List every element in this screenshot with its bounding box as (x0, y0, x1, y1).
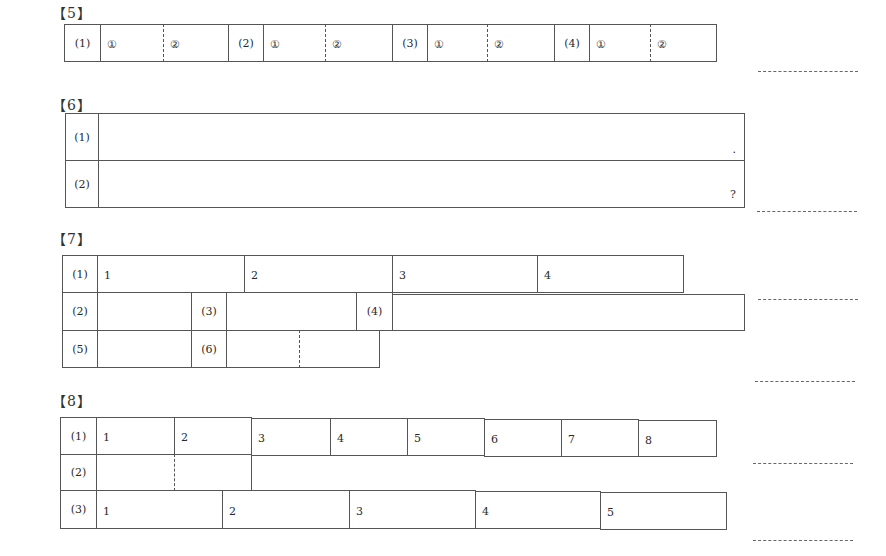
s6-q1-answer[interactable]: . (98, 113, 745, 161)
s8-q1-answer-2[interactable]: 2 (174, 417, 252, 455)
s5-q1-label: (1) (64, 24, 101, 62)
s8-q1-answer-7[interactable]: 7 (561, 419, 639, 457)
s5-q3-answer-1[interactable]: ① (427, 24, 488, 62)
s5-q4-answer-2[interactable]: ② (650, 24, 717, 62)
s7-score-line-1 (758, 299, 858, 300)
s5-q1-answer-2[interactable]: ② (163, 24, 229, 62)
s8-q3-answer-5[interactable]: 5 (600, 492, 727, 530)
section-5-heading: 【5】 (52, 2, 92, 22)
s5-q2-answer-1[interactable]: ① (263, 24, 326, 62)
s8-q1-answer-4[interactable]: 4 (330, 418, 408, 456)
section-6-heading: 【6】 (52, 94, 92, 114)
s7-q5-label: (5) (62, 330, 98, 368)
s8-q3-answer-4[interactable]: 4 (475, 491, 601, 529)
s5-q2-answer-2[interactable]: ② (325, 24, 393, 62)
s7-q1-answer-4[interactable]: 4 (537, 255, 684, 293)
s5-q4-label: (4) (554, 24, 590, 62)
s7-q5-answer[interactable] (97, 330, 192, 368)
s5-q3-answer-2[interactable]: ② (487, 24, 555, 62)
s8-q2-answer-2[interactable] (174, 454, 252, 491)
s7-q1-answer-1[interactable]: 1 (97, 255, 245, 293)
s8-q1-answer-5[interactable]: 5 (407, 418, 485, 456)
s6-q2-label: (2) (65, 160, 99, 208)
s7-q3-label: (3) (191, 292, 227, 331)
s8-q1-answer-3[interactable]: 3 (251, 418, 331, 456)
s7-q4-label: (4) (356, 292, 393, 331)
s6-q1-label: (1) (65, 113, 99, 161)
section-7-heading: 【7】 (52, 228, 92, 248)
s7-q1-answer-2[interactable]: 2 (244, 255, 393, 293)
s7-q6-answer-2[interactable] (299, 330, 380, 368)
s8-q3-label: (3) (60, 490, 97, 529)
s7-q6-answer-1[interactable] (226, 330, 300, 368)
section-8-heading: 【8】 (52, 390, 92, 410)
s6-q2-question-mark: ? (730, 188, 736, 201)
s5-q3-label: (3) (392, 24, 428, 62)
s7-q1-answer-3[interactable]: 3 (392, 255, 538, 293)
s5-q2-label: (2) (228, 24, 264, 62)
s8-q1-answer-1[interactable]: 1 (96, 417, 175, 455)
s7-q2-label: (2) (62, 292, 98, 331)
s8-q3-answer-2[interactable]: 2 (222, 490, 350, 529)
s5-q4-answer-1[interactable]: ① (589, 24, 651, 62)
s6-q1-period: . (733, 143, 737, 156)
s7-score-line-2 (755, 381, 855, 382)
s6-score-line (757, 211, 857, 212)
s7-q6-label: (6) (191, 330, 227, 368)
s8-q3-answer-3[interactable]: 3 (349, 490, 476, 529)
s7-q3-answer[interactable] (226, 292, 357, 331)
s8-q2-label: (2) (60, 454, 97, 491)
s6-q2-answer[interactable]: ? (98, 160, 745, 208)
s7-q2-answer[interactable] (97, 292, 192, 331)
s7-q1-label: (1) (62, 255, 98, 293)
s8-q3-answer-1[interactable]: 1 (96, 490, 223, 529)
s8-q1-answer-8[interactable]: 8 (638, 420, 717, 457)
s5-q1-answer-1[interactable]: ① (100, 24, 164, 62)
s8-q1-label: (1) (60, 417, 97, 455)
s8-score-line-1 (753, 463, 853, 464)
s5-score-line (758, 71, 858, 72)
s8-score-line-2 (753, 540, 853, 541)
s7-q4-answer[interactable] (392, 294, 745, 331)
s8-q1-answer-6[interactable]: 6 (484, 419, 562, 457)
s8-q2-answer-1[interactable] (96, 454, 175, 491)
